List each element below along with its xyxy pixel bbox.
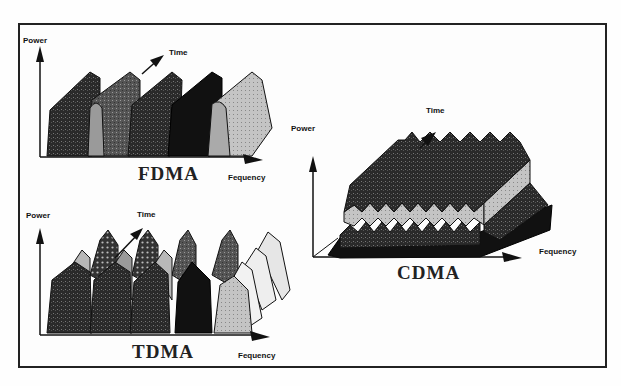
tdma-panel — [36, 228, 290, 341]
tdma-power-arrow-icon — [36, 228, 44, 244]
fdma-panel — [36, 46, 272, 164]
cdma-power-arrow-icon — [309, 156, 317, 172]
fdma-frequency-arrow-icon — [243, 154, 263, 164]
fdma-power-arrow-icon — [36, 46, 44, 62]
tdma-time-label: Time — [137, 210, 156, 219]
fdma-frequency-label: Fequency — [228, 173, 265, 182]
cdma-power-label: Power — [291, 124, 315, 133]
tdma-power-label: Power — [26, 211, 50, 220]
tdma-frequency-arrow-icon — [250, 331, 270, 341]
fdma-title: FDMA — [138, 163, 199, 185]
cdma-frequency-arrow-icon — [502, 252, 522, 262]
fdma-power-label: Power — [23, 36, 47, 45]
cdma-panel — [309, 132, 552, 262]
tdma-frequency-label: Fequency — [238, 351, 275, 360]
multiple-access-diagram — [0, 0, 621, 386]
cdma-time-label: Time — [426, 106, 445, 115]
fdma-time-label: Time — [169, 48, 188, 57]
cdma-title: CDMA — [397, 262, 460, 284]
cdma-frequency-label: Fequency — [539, 247, 576, 256]
tdma-title: TDMA — [132, 341, 194, 363]
